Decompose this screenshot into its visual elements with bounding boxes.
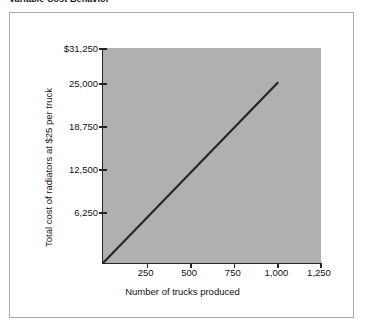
x-axis-tick-labels: 250 500 750 1,000 1,250	[102, 268, 320, 282]
chart-card: Total cost of radiators at $25 per truck…	[9, 12, 354, 318]
y-tick-label-12500: 12,500	[44, 165, 98, 175]
y-tick-label-18750: 18,750	[44, 122, 98, 132]
y-tick-label-6250: 6,250	[44, 208, 98, 218]
x-tick-label-1000: 1,000	[253, 268, 299, 278]
y-axis-tick-labels: $31,250 25,000 18,750 12,500 6,250	[44, 13, 98, 317]
x-tick-label-500: 500	[166, 268, 212, 278]
data-line-total-variable-cost	[103, 83, 277, 263]
x-tick-label-750: 750	[210, 268, 256, 278]
y-tick-label-31250: $31,250	[44, 44, 98, 54]
x-tick-label-1250: 1,250	[296, 268, 342, 278]
x-axis-title: Number of trucks produced	[10, 286, 355, 297]
plot-area	[102, 48, 321, 264]
variable-cost-line-series	[103, 48, 321, 263]
page-title: Variable Cost Behavior	[9, 0, 109, 4]
x-tick-label-250: 250	[123, 268, 169, 278]
y-tick-label-25000: 25,000	[44, 79, 98, 89]
